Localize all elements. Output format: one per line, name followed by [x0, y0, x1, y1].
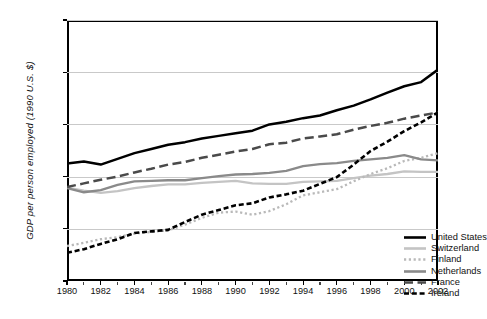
x-tick-mark [303, 281, 304, 285]
x-tick-mark [168, 281, 169, 285]
legend-swatch-icon [404, 232, 426, 243]
legend-item: Switzerland [404, 243, 487, 254]
x-tick-mark [370, 281, 371, 285]
x-tick-mark-minor [83, 282, 84, 285]
legend-item: Ireland [404, 288, 487, 299]
legend-label: Finland [431, 254, 462, 265]
x-tick-mark-minor [184, 282, 185, 285]
x-tick-mark-minor [117, 282, 118, 285]
x-tick-mark-minor [252, 282, 253, 285]
x-tick-mark-minor [387, 282, 388, 285]
legend-label: Switzerland [431, 243, 479, 254]
legend-item: Finland [404, 254, 487, 265]
legend-label: United States [431, 232, 487, 243]
legend-item: France [404, 277, 487, 288]
legend-label: France [431, 277, 460, 288]
x-tick-mark-minor [151, 282, 152, 285]
x-tick-mark-minor [218, 282, 219, 285]
x-tick-mark [201, 281, 202, 285]
data-lines [67, 20, 438, 281]
legend-swatch-icon [404, 243, 426, 254]
legend-swatch-icon [404, 254, 426, 265]
x-tick-mark [100, 281, 101, 285]
legend-label: Netherlands [431, 266, 481, 277]
x-tick-mark [66, 281, 67, 285]
x-tick-mark [235, 281, 236, 285]
x-tick-mark [269, 281, 270, 285]
chart-legend: United StatesSwitzerlandFinlandNetherlan… [404, 232, 487, 299]
legend-swatch-icon [404, 288, 426, 299]
x-tick-mark [336, 281, 337, 285]
plot-area: 20,00030,00040,00050,00060,00070,000 198… [67, 20, 438, 281]
y-axis-label: GDP per person employed (1990 U.S. $) [24, 26, 35, 276]
x-tick-mark-minor [286, 282, 287, 285]
legend-item: United States [404, 232, 487, 243]
x-tick-mark-minor [319, 282, 320, 285]
x-tick-mark-minor [353, 282, 354, 285]
legend-swatch-icon [404, 266, 426, 277]
legend-label: Ireland [431, 288, 459, 299]
series-line [67, 70, 438, 165]
legend-swatch-icon [404, 277, 426, 288]
series-line [67, 153, 438, 246]
x-tick-mark [134, 281, 135, 285]
legend-item: Netherlands [404, 266, 487, 277]
series-line [67, 112, 438, 187]
